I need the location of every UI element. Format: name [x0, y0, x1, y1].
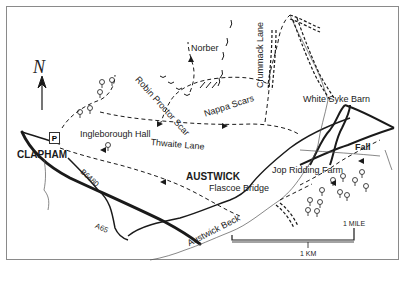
place-ingleborough-hall: Ingleborough Hall — [80, 130, 151, 139]
place-white-syke-barn: White Syke Barn — [303, 95, 370, 104]
walled-lanes — [268, 15, 334, 228]
place-flascoe-bridge: Flascoe Bridge — [209, 184, 269, 193]
place-fall: Fall — [355, 143, 371, 152]
north-label: N — [33, 57, 45, 78]
scale-km-label: 1 KM — [300, 250, 316, 257]
north-arrow-icon — [38, 76, 46, 110]
parking-icon: P — [49, 132, 60, 144]
place-norber: Norber — [191, 44, 219, 53]
scale-bar — [232, 228, 354, 248]
scale-mile-label: 1 MILE — [343, 220, 365, 227]
place-crummack-lane: Crummack Lane — [256, 22, 265, 88]
town-austwick: AUSTWICK — [186, 172, 240, 182]
place-jop-ridding-farm: Jop Ridding Farm — [272, 166, 343, 175]
town-clapham: CLAPHAM — [17, 150, 67, 160]
scar-marks — [160, 20, 232, 96]
